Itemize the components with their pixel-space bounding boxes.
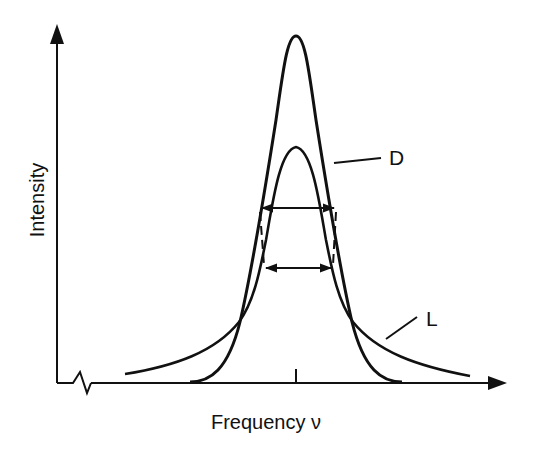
x-axis-label: Frequency ν — [211, 411, 321, 433]
x-axis: Frequency ν — [57, 369, 507, 433]
curve-d-leader-line — [334, 158, 381, 163]
x-axis-break-icon — [57, 372, 91, 393]
curve-l-leader-line — [386, 317, 417, 339]
x-axis-arrow-icon — [488, 376, 507, 390]
curve-l-lorentzian — [125, 147, 470, 376]
y-axis: Intensity — [26, 24, 64, 383]
curve-l-label: L — [426, 307, 438, 330]
y-axis-arrow-icon — [50, 24, 64, 44]
line-profile-diagram: Intensity Frequency ν D L — [0, 0, 535, 451]
y-axis-label: Intensity — [26, 163, 48, 237]
curve-d-label: D — [389, 146, 404, 169]
curve-d-label-group: D — [334, 146, 404, 169]
curve-l-label-group: L — [386, 307, 438, 339]
